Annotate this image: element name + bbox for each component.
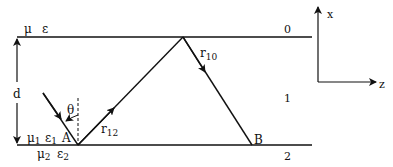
layered-medium-diagram: d μ ε 0 1 2 θ r12 r10 A B μ1 ε1 μ2 ε2 x … <box>0 0 393 167</box>
z-axis-label: z <box>379 78 385 91</box>
medium1-mu: μ1 <box>27 131 41 146</box>
theta-label: θ <box>67 103 74 117</box>
diagram-svg: d μ ε 0 1 2 θ r12 r10 A B μ1 ε1 μ2 ε2 x … <box>0 0 393 167</box>
r10-label: r10 <box>200 46 217 62</box>
epsilon-label: ε <box>42 22 48 36</box>
layer-2-label: 2 <box>284 150 291 163</box>
mu-label: μ <box>24 22 32 36</box>
ray-r12-arrow <box>78 108 114 145</box>
medium2-eps: ε2 <box>57 147 69 162</box>
point-b-label: B <box>254 133 263 147</box>
r12-label: r12 <box>101 122 118 138</box>
medium1-eps: ε1 <box>45 131 57 146</box>
incident-ray-arrow <box>43 93 61 119</box>
medium2-mu: μ2 <box>37 147 51 162</box>
layer-1-label: 1 <box>284 92 291 105</box>
point-a-label: A <box>61 131 71 145</box>
thickness-label: d <box>13 87 21 101</box>
layer-0-label: 0 <box>284 23 291 36</box>
x-axis-label: x <box>327 8 334 21</box>
